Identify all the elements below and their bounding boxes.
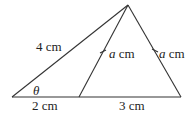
triangle-diagram: 4 cm θ 2 cm 3 cm a cm a cm <box>0 0 193 116</box>
left-side-label: 4 cm <box>36 40 62 53</box>
angle-theta-label: θ <box>33 84 39 97</box>
base-right-label: 3 cm <box>119 99 145 112</box>
right-side-label: a cm <box>159 47 185 60</box>
base-left-label: 2 cm <box>32 99 58 112</box>
inner-side-label: a cm <box>109 47 135 60</box>
